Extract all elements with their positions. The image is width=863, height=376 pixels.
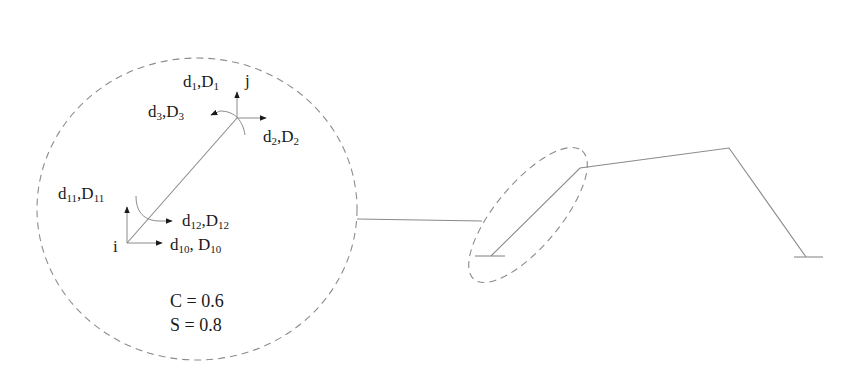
- diagram-canvas: [0, 0, 863, 376]
- frame-members: [491, 148, 806, 257]
- connector-line: [357, 219, 482, 221]
- label-d10-D10: d10, D10: [170, 236, 221, 258]
- sine-value: S = 0.8: [170, 314, 222, 336]
- arrow-d3-rotation: [211, 111, 245, 135]
- node-label-j: j: [245, 72, 250, 89]
- cosine-value: C = 0.6: [170, 290, 224, 312]
- arrow-d12-rotation: [136, 196, 172, 221]
- label-d1-D1: d1,D1: [183, 73, 219, 95]
- highlight-ellipse: [449, 130, 606, 300]
- label-d11-D11: d11,D11: [58, 185, 104, 207]
- label-d2-D2: d2,D2: [263, 128, 299, 150]
- label-d12-D12: d12,D12: [182, 212, 229, 234]
- node-label-i: i: [113, 238, 118, 255]
- label-d3-D3: d3,D3: [148, 103, 184, 125]
